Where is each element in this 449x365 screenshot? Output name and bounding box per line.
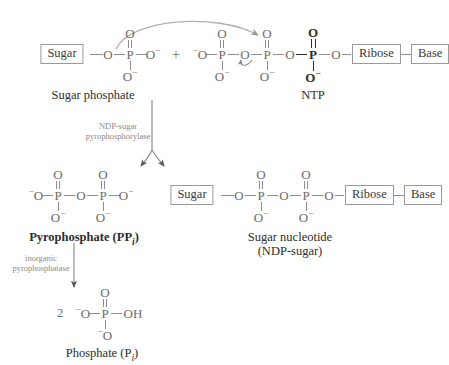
bond-pi-p-o-double-a bbox=[103, 299, 104, 307]
pp-o-right-charge: − bbox=[128, 186, 133, 196]
bond-sn-p1-o-double-a bbox=[259, 181, 260, 189]
bond-sn-p1-o-double-b bbox=[262, 181, 263, 189]
bond-palpha-o-double-b bbox=[315, 39, 316, 48]
sugar-box-top[interactable]: Sugar bbox=[40, 44, 83, 64]
sn-p1-o-bottom-charge: − bbox=[263, 208, 268, 218]
bond-ogamma-pgamma bbox=[206, 54, 217, 55]
atom-pi-oh: OH bbox=[124, 307, 143, 320]
bond-pbeta-o-double-b bbox=[268, 40, 269, 48]
sn-caption-line2: (NDP-sugar) bbox=[248, 244, 332, 258]
atom-p-beta: P bbox=[263, 48, 270, 61]
o-beta-bottom-charge: − bbox=[269, 67, 274, 77]
bond-ribose-base-top bbox=[401, 54, 411, 55]
atom-p-gamma: P bbox=[218, 48, 225, 61]
bond-pp-p1-obridge bbox=[64, 195, 75, 196]
pi-o-bottom-label: O bbox=[103, 328, 112, 343]
caption-sugar-nucleotide: Sugar nucleotide (NDP-sugar) bbox=[248, 230, 332, 258]
atom-o-bridge-1: O bbox=[240, 48, 249, 61]
bond-obridge1-pbeta bbox=[251, 54, 262, 55]
bond-o-to-p bbox=[114, 54, 125, 55]
bond-sn-o1-p1 bbox=[245, 195, 256, 196]
bond-pp-p1-o-double-a bbox=[56, 181, 57, 189]
bond-pp-p1-o-double-b bbox=[59, 181, 60, 189]
enzyme-2-line2: pyrophosphatase bbox=[12, 263, 69, 273]
base-box-bottom[interactable]: Base bbox=[404, 185, 442, 205]
bond-sn-p2-o-double-a bbox=[304, 181, 305, 189]
atom-o-right-sugar-phosphate: O− bbox=[146, 48, 160, 61]
atom-sn-o-bridge: O bbox=[279, 189, 288, 202]
o-right-sp-charge: − bbox=[155, 45, 160, 55]
bond-p-o-double-a bbox=[128, 40, 129, 48]
bond-sn-p2-o2 bbox=[312, 195, 323, 196]
atom-o-beta-bottom: O− bbox=[260, 70, 274, 83]
atom-o-gamma-bottom: O− bbox=[215, 70, 229, 83]
atom-o-gamma-top: O bbox=[217, 27, 226, 40]
bond-palpha-o-double-a bbox=[311, 39, 312, 48]
nucleophilic-attack-arrow bbox=[116, 21, 258, 49]
reaction-arrow-branch-right bbox=[152, 150, 164, 166]
caption-phosphate: Phosphate (Pi) bbox=[66, 346, 138, 360]
o-gamma-bottom-charge: − bbox=[224, 67, 229, 77]
atom-sn-o-1: O bbox=[234, 189, 243, 202]
phosphate-coefficient: 2 bbox=[57, 307, 63, 320]
pi-caption-main: Phosphate (P bbox=[66, 346, 132, 360]
pi-caption-end: ) bbox=[134, 346, 138, 360]
bond-pbeta-obridge2 bbox=[273, 54, 284, 55]
bond-pbeta-o-double-a bbox=[265, 40, 266, 48]
ribose-box-top[interactable]: Ribose bbox=[352, 44, 401, 64]
atom-o-bridge-2: O bbox=[285, 48, 294, 61]
o-alpha-bottom-label: O bbox=[305, 70, 315, 85]
atom-p-alpha: P bbox=[309, 48, 317, 61]
pp-o2-bottom-charge: − bbox=[105, 208, 110, 218]
bond-obridge2-palpha bbox=[296, 54, 307, 55]
atom-o-alpha-top: O bbox=[308, 26, 318, 39]
o-bottom-sp-label: O bbox=[123, 69, 132, 84]
atom-pp-o-bridge: O bbox=[76, 189, 85, 202]
atom-o-top-sugar-phosphate: O bbox=[125, 27, 134, 40]
bond-pp-oleft-p1 bbox=[42, 195, 53, 196]
ribose-box-bottom[interactable]: Ribose bbox=[345, 185, 394, 205]
atom-pp-o1-bottom: O− bbox=[51, 211, 65, 224]
o-beta-bottom-label: O bbox=[260, 69, 269, 84]
bond-pi-oleft-p bbox=[89, 313, 100, 314]
bond-pgamma-o-double-a bbox=[220, 40, 221, 48]
bond-ribose-base-bottom bbox=[394, 195, 404, 196]
bond-sn-p1-obridge bbox=[267, 195, 278, 196]
caption-pyrophosphate: Pyrophosphate (PPi) bbox=[29, 230, 139, 244]
atom-o-bottom-sugar-phosphate: O− bbox=[123, 70, 137, 83]
sn-p1-o-bottom-label: O bbox=[254, 210, 263, 225]
enzyme-2-line1: inorganic bbox=[12, 253, 69, 263]
plus-sign: + bbox=[172, 48, 180, 62]
atom-pp-o1-top: O bbox=[53, 168, 62, 181]
atom-pi-o-top: O bbox=[100, 286, 109, 299]
pp-o1-bottom-charge: − bbox=[60, 208, 65, 218]
pp-caption-main: Pyrophosphate (PP bbox=[29, 230, 132, 244]
atom-sn-p2: P bbox=[302, 189, 309, 202]
bond-sn-p2-o-double-b bbox=[307, 181, 308, 189]
bond-pp-p2-o-double-a bbox=[101, 181, 102, 189]
bond-sn-o2-ribose bbox=[335, 195, 344, 196]
bond-pp-obridge-p2 bbox=[87, 195, 98, 196]
atom-pp-p2: P bbox=[99, 189, 106, 202]
atom-o-to-ribose-top: O bbox=[331, 48, 340, 61]
bond-pi-p-oh bbox=[111, 313, 122, 314]
bond-o-to-ribose-box-top bbox=[342, 54, 351, 55]
reaction-arrow-branch-left bbox=[141, 150, 152, 166]
sugar-box-bottom[interactable]: Sugar bbox=[170, 185, 213, 205]
enzyme-label-1: NDP-sugar pyrophosphorylase bbox=[86, 121, 151, 141]
atom-o-bridge-sugar: O bbox=[103, 48, 112, 61]
pp-caption-end: ) bbox=[135, 230, 139, 244]
caption-ntp: NTP bbox=[301, 88, 325, 102]
atom-o-alpha-bottom: O− bbox=[305, 71, 320, 84]
atom-sn-p2-o-top: O bbox=[301, 168, 310, 181]
pp-o2-bottom-label: O bbox=[96, 210, 105, 225]
bond-pp-p2-o-double-b bbox=[104, 181, 105, 189]
pp-o-right-label: O bbox=[119, 188, 128, 203]
atom-pp-o-right: O− bbox=[119, 189, 133, 202]
o-gamma-bottom-label: O bbox=[215, 69, 224, 84]
atom-p-sugar-phosphate: P bbox=[126, 48, 133, 61]
o-right-sp-label: O bbox=[146, 47, 155, 62]
base-box-top[interactable]: Base bbox=[411, 44, 449, 64]
atom-pi-p: P bbox=[101, 307, 108, 320]
